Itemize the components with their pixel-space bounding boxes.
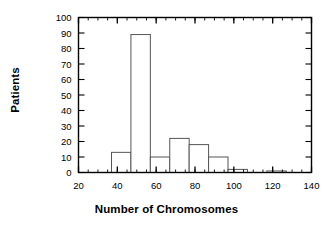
histogram-bar: [112, 152, 131, 172]
x-tick-label: 100: [226, 180, 242, 191]
histogram-bar: [150, 157, 169, 173]
y-tick-label: 50: [61, 90, 72, 101]
y-tick-label: 20: [61, 136, 72, 147]
bars-group: [112, 35, 287, 173]
y-tick-label: 30: [61, 121, 72, 132]
x-tick-label: 120: [265, 180, 281, 191]
x-tick-label: 60: [151, 180, 162, 191]
y-tick-label: 70: [61, 59, 72, 70]
histogram-figure: Patients 2040608010012014001020304050607…: [0, 0, 333, 228]
y-tick-label: 60: [61, 74, 72, 85]
x-tick-label: 80: [190, 180, 201, 191]
y-tick-label: 100: [56, 12, 72, 23]
x-tick-label: 140: [304, 180, 320, 191]
histogram-bar: [170, 138, 189, 172]
y-tick-label: 10: [61, 152, 72, 163]
x-tick-label: 40: [112, 180, 123, 191]
x-axis-title: Number of Chromosomes: [0, 203, 333, 215]
y-tick-label: 80: [61, 43, 72, 54]
y-tick-label: 90: [61, 28, 72, 39]
histogram-bar: [189, 145, 208, 173]
y-tick-label: 40: [61, 105, 72, 116]
histogram-bar: [209, 157, 228, 173]
y-tick-label: 0: [66, 167, 71, 178]
x-tick-label: 20: [73, 180, 84, 191]
x-axis-title-text: Number of Chromosomes: [95, 203, 238, 215]
histogram-bar: [131, 35, 150, 173]
plot-area: 204060801001201400102030405060708090100: [0, 0, 333, 228]
